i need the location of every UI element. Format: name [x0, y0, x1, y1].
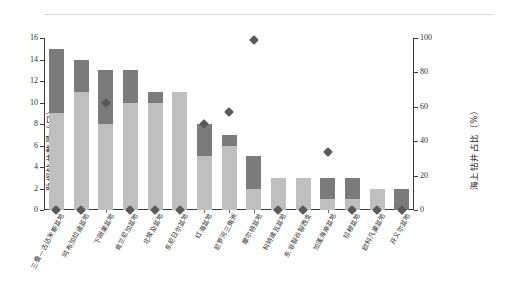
y-tick-label-left: 16 [30, 34, 38, 42]
bar-segment-onshore [98, 124, 113, 210]
y-tick-label-right: 40 [420, 137, 428, 145]
bar-segment-onshore [197, 156, 212, 210]
x-axis-label: 肯兰尼加盆地 [115, 212, 141, 253]
bar-stack[interactable] [320, 178, 335, 210]
plot-area: 0246810121416 020406080100 [44, 38, 414, 210]
y-tick-right [414, 210, 418, 211]
y-tick-label-right: 80 [420, 68, 428, 76]
x-axis-label: 拉穆盆地 [343, 212, 363, 240]
y-tick-right [414, 141, 418, 142]
x-axis-label: 三叠—古达米斯盆地 [31, 212, 67, 271]
y-tick-label-left: 2 [34, 185, 38, 193]
x-axis-labels: 三叠—古达米斯盆地阿布加拉迪盆地下刚果盆地肯兰尼加盆地北埃及盆地东尼日尔盆地红海… [44, 212, 414, 294]
bar-segment-onshore [320, 199, 335, 210]
y-tick-label-left: 0 [34, 206, 38, 214]
bar-segment-onshore [123, 103, 138, 211]
bar-segment-offshore [74, 60, 89, 92]
bar-stack[interactable] [197, 124, 212, 210]
bar-segment-onshore [246, 189, 261, 211]
x-axis-label: 红海盆地 [195, 212, 215, 240]
x-axis-label: 下刚果盆地 [93, 212, 116, 246]
y-tick-label-left: 10 [30, 99, 38, 107]
x-axis-label: 阿布加拉迪盆地 [62, 212, 92, 259]
y-tick-label-left: 12 [30, 77, 38, 85]
x-axis-label: 摩尔特盆地 [241, 212, 264, 246]
bar-segment-onshore [74, 92, 89, 210]
bar-stack[interactable] [74, 60, 89, 211]
bar-segment-onshore [222, 146, 237, 211]
y-tick-label-right: 20 [420, 172, 428, 180]
bar-segment-offshore [222, 135, 237, 146]
y-tick-right [414, 38, 418, 39]
y-axis-right-title: 海上钻井占比（%） [468, 105, 480, 190]
bar-segment-offshore [246, 156, 261, 188]
bar-segment-offshore [148, 92, 163, 103]
bar-stack[interactable] [172, 92, 187, 210]
bar-series-group [44, 38, 414, 210]
bar-stack[interactable] [246, 156, 261, 210]
y-tick-label-right: 100 [420, 34, 432, 42]
bar-stack[interactable] [49, 49, 64, 210]
x-axis-label: 北埃及盆地 [143, 212, 166, 246]
x-axis-label: 科特迪瓦盆地 [263, 212, 289, 253]
x-axis-label: 东尼日尔盆地 [164, 212, 190, 253]
bar-segment-onshore [172, 92, 187, 210]
y-tick-label-left: 4 [34, 163, 38, 171]
bar-segment-offshore [320, 178, 335, 200]
y-tick-label-left: 14 [30, 56, 38, 64]
top-divider [44, 14, 494, 15]
bar-segment-onshore [49, 113, 64, 210]
bar-stack[interactable] [123, 70, 138, 210]
y-tick-right [414, 176, 418, 177]
bar-stack[interactable] [222, 135, 237, 210]
bar-segment-offshore [345, 178, 360, 200]
x-axis-label: 加蓬海岸盆地 [312, 212, 338, 253]
bar-segment-offshore [197, 124, 212, 156]
y-tick-label-left: 6 [34, 142, 38, 150]
y-tick-label-right: 60 [420, 103, 428, 111]
bar-stack[interactable] [148, 92, 163, 210]
bar-segment-offshore [123, 70, 138, 102]
y-tick-right [414, 107, 418, 108]
x-axis-label: 东非裂谷裂西支 [284, 212, 314, 259]
bar-segment-offshore [49, 49, 64, 114]
x-axis-label: 开义尔盆地 [389, 212, 412, 246]
chart-page: 勘探钻井数量（口） 海上钻井占比（%） 0246810121416 020406… [0, 0, 510, 295]
y-tick-label-left: 8 [34, 120, 38, 128]
bar-segment-onshore [148, 103, 163, 211]
y-tick-label-right: 0 [420, 206, 424, 214]
x-axis-label: 尼罗河三角洲 [213, 212, 239, 253]
bar-stack[interactable] [98, 70, 113, 210]
x-axis-label: 欧科凡果盆地 [361, 212, 387, 253]
y-tick-right [414, 72, 418, 73]
y-tick-left [40, 210, 44, 211]
